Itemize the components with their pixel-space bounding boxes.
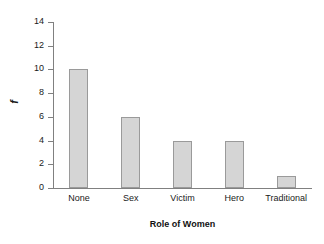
bar-chart: f 02468101214 NoneSexVictimHeroTradition… [0, 0, 324, 244]
y-axis-tick-label-text: 6 [22, 112, 44, 121]
x-axis-tick-label: Sex [105, 193, 157, 204]
bar [225, 141, 244, 188]
bar [121, 117, 140, 188]
y-axis-tick-label-text: 0 [22, 183, 44, 192]
y-axis-title: f [6, 94, 22, 110]
y-axis-tick-label: 14 [22, 17, 44, 26]
y-axis-tick-label-text: 2 [22, 159, 44, 168]
bar [173, 141, 192, 188]
bar [277, 176, 296, 188]
y-axis-tick-label-text: 14 [22, 17, 44, 26]
y-axis-tick-label-text: 8 [22, 88, 44, 97]
y-axis-tick [48, 164, 53, 165]
x-axis-tick-label: Victim [157, 193, 209, 204]
y-axis-tick [48, 22, 53, 23]
x-axis-title: Role of Women [53, 219, 312, 230]
y-axis-line [53, 22, 54, 189]
y-axis-tick [48, 188, 53, 189]
x-axis-tick-label: Traditional [260, 193, 312, 204]
y-axis-tick-label: 6 [22, 112, 44, 121]
y-axis-tick-label: 10 [22, 64, 44, 73]
y-axis-tick [48, 93, 53, 94]
bar [69, 69, 88, 188]
x-axis-tick-label: Hero [208, 193, 260, 204]
y-axis-tick-label: 4 [22, 136, 44, 145]
y-axis-tick-label: 8 [22, 88, 44, 97]
y-axis-tick-label: 0 [22, 183, 44, 192]
y-axis-tick-label-text: 4 [22, 136, 44, 145]
x-axis-tick-label: None [53, 193, 105, 204]
y-axis-tick-label-text: 10 [22, 64, 44, 73]
y-axis-tick [48, 117, 53, 118]
y-axis-tick-label: 2 [22, 159, 44, 168]
y-axis-tick-label: 12 [22, 41, 44, 50]
x-axis-line [53, 188, 312, 189]
y-axis-tick [48, 46, 53, 47]
y-axis-tick [48, 69, 53, 70]
y-axis-tick [48, 141, 53, 142]
y-axis-tick-label-text: 12 [22, 41, 44, 50]
